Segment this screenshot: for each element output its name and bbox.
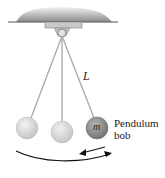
pendulum-bob-label: Pendulum bob (114, 117, 159, 141)
pendulum-diagram (0, 0, 165, 178)
pendulum-bob-label-line2: bob (114, 129, 159, 141)
ceiling (8, 7, 118, 22)
swing-arrows (16, 147, 110, 161)
arrow-head-left (79, 149, 86, 156)
pivot-mount (45, 22, 82, 37)
mass-label: m (93, 121, 100, 133)
length-label: L (83, 70, 90, 82)
bob-left (16, 117, 38, 139)
bob-center (51, 121, 73, 143)
pendulum-bob-label-line1: Pendulum (114, 117, 159, 129)
